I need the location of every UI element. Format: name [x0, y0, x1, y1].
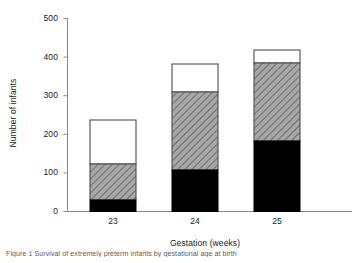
bar-23-black-segment [90, 200, 136, 212]
bar-23-hatched-segment [90, 164, 136, 200]
x-tick-label-23: 23 [93, 216, 133, 226]
x-tick-label-24: 24 [175, 216, 215, 226]
bar-24-white-segment [172, 64, 218, 92]
bar-23-white-segment [90, 120, 136, 164]
y-tick-label-100: 100 [32, 167, 58, 177]
y-tick-label-0: 0 [32, 206, 58, 216]
bar-group-25 [254, 50, 300, 212]
bar-24-hatched-segment [172, 92, 218, 170]
bar-25-white-segment [254, 50, 300, 63]
figure-caption: Figure 1 Survival of extremely preterm i… [6, 250, 358, 257]
bar-group-24 [172, 64, 218, 212]
x-tick-label-25: 25 [257, 216, 297, 226]
x-axis-title: Gestation (weeks) [60, 238, 350, 248]
y-tick-label-400: 400 [32, 52, 58, 62]
y-tick-label-500: 500 [32, 13, 58, 23]
y-axis-title: Number of infants [8, 53, 18, 173]
y-tick-label-300: 300 [32, 90, 58, 100]
bar-25-hatched-segment [254, 63, 300, 141]
bar-group-23 [90, 120, 136, 212]
bar-25-black-segment [254, 141, 300, 212]
bar-24-black-segment [172, 170, 218, 212]
chart-figure: 500 400 300 200 100 0 23 24 25 Number of… [0, 0, 362, 263]
y-tick-label-200: 200 [32, 129, 58, 139]
